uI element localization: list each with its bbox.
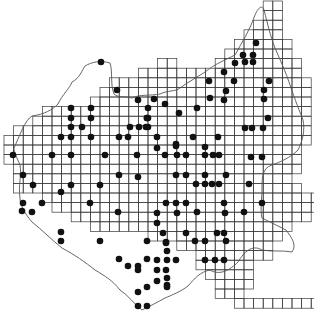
- grid-cell: [215, 279, 225, 289]
- occurrence-dot: [250, 59, 257, 66]
- grid-cell: [282, 222, 292, 232]
- grid-cell: [81, 183, 91, 193]
- occurrence-dot: [163, 267, 170, 274]
- grid-cell: [158, 107, 168, 117]
- occurrence-dot: [260, 125, 267, 132]
- occurrence-dot: [202, 181, 209, 188]
- grid-cell: [244, 87, 254, 97]
- grid-cell: [81, 212, 91, 222]
- grid-cell: [302, 78, 312, 88]
- grid-cell: [206, 107, 216, 117]
- occurrence-dot: [114, 87, 121, 94]
- grid-cell: [90, 212, 100, 222]
- grid-cell: [100, 164, 110, 174]
- occurrence-dot: [240, 52, 247, 59]
- grid-cell: [282, 59, 292, 69]
- grid-cell: [215, 107, 225, 117]
- grid-cell: [186, 68, 196, 78]
- grid-cell: [100, 203, 110, 213]
- grid-cell: [234, 87, 244, 97]
- grid-cell: [225, 222, 235, 232]
- grid-cell: [215, 289, 225, 299]
- grid-cell: [225, 107, 235, 117]
- grid-cell: [292, 203, 302, 213]
- grid-cell: [273, 299, 283, 309]
- grid-cell: [263, 231, 273, 241]
- occurrence-dot: [259, 154, 266, 161]
- grid-cell: [234, 174, 244, 184]
- grid-cell: [311, 203, 314, 213]
- grid-cell: [186, 97, 196, 107]
- grid-cell: [263, 174, 273, 184]
- grid-cell: [196, 87, 206, 97]
- grid-cell: [23, 135, 33, 145]
- grid-cell: [138, 222, 148, 232]
- occurrence-dot: [210, 152, 217, 159]
- occurrence-dot: [173, 257, 180, 264]
- grid-cell: [292, 155, 302, 165]
- occurrence-dot: [223, 238, 230, 245]
- grid-cell: [90, 155, 100, 165]
- occurrence-dot: [136, 124, 143, 131]
- grid-cell: [282, 174, 292, 184]
- grid-cell: [282, 193, 292, 203]
- grid-cell: [234, 107, 244, 117]
- grid-cell: [167, 183, 177, 193]
- occurrence-dot: [206, 78, 213, 85]
- grid-cell: [119, 222, 129, 232]
- grid-cell: [148, 78, 158, 88]
- grid-cell: [273, 68, 283, 78]
- occurrence-dot: [154, 220, 161, 227]
- occurrence-dot: [207, 95, 214, 102]
- grid-cell: [62, 164, 72, 174]
- grid-cell: [138, 145, 148, 155]
- grid-cell: [100, 222, 110, 232]
- grid-cell: [254, 299, 264, 309]
- grid-cell: [206, 203, 216, 213]
- grid-cell: [100, 87, 110, 97]
- grid-cell: [148, 193, 158, 203]
- grid-cell: [196, 222, 206, 232]
- occurrence-dot: [160, 230, 167, 237]
- grid-cell: [244, 279, 254, 289]
- occurrence-dot: [10, 152, 17, 159]
- grid-cell: [215, 126, 225, 136]
- grid-cell: [234, 164, 244, 174]
- grid-cell: [311, 299, 314, 309]
- grid-cell: [302, 97, 312, 107]
- grid-cell: [215, 270, 225, 280]
- occurrence-dot: [174, 210, 181, 217]
- occurrence-dot: [194, 209, 201, 216]
- grid-cell: [52, 164, 62, 174]
- grid-cell: [254, 231, 264, 241]
- grid-cell: [215, 116, 225, 126]
- grid-cell: [234, 155, 244, 165]
- distribution-map: [0, 0, 314, 327]
- occurrence-dot: [116, 172, 123, 179]
- grid-cell: [177, 126, 187, 136]
- occurrence-dot: [79, 124, 86, 131]
- grid-cell: [244, 260, 254, 270]
- grid-cell: [254, 222, 264, 232]
- grid-cell: [273, 231, 283, 241]
- grid-cell: [292, 299, 302, 309]
- grid-cell: [100, 174, 110, 184]
- grid-cell: [302, 87, 312, 97]
- occurrence-dot: [202, 144, 209, 151]
- grid-cell: [177, 68, 187, 78]
- grid-cell: [52, 116, 62, 126]
- grid-cell: [225, 126, 235, 136]
- grid-cell: [234, 270, 244, 280]
- grid-cell: [282, 212, 292, 222]
- grid-cell: [234, 289, 244, 299]
- grid-cell: [282, 164, 292, 174]
- grid-cell: [254, 164, 264, 174]
- grid-cell: [234, 299, 244, 309]
- occurrence-dot: [174, 152, 181, 159]
- grid-cell: [23, 155, 33, 165]
- grid-cell: [167, 59, 177, 69]
- grid-cell: [129, 164, 139, 174]
- occurrence-dot: [241, 209, 248, 216]
- occurrence-dot: [212, 257, 219, 264]
- grid-cell: [273, 39, 283, 49]
